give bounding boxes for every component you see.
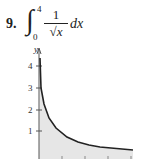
integral-problem: 9. ∫ 4 0 1 √x dx	[4, 4, 142, 44]
svg-text:1: 1	[28, 126, 33, 136]
integrand-fraction: 1 √x	[44, 8, 68, 39]
svg-text:2: 2	[28, 105, 33, 115]
problem-number: 9.	[6, 16, 17, 32]
function-graph: 4 3 2 1	[0, 44, 142, 159]
integral-sign: ∫	[26, 6, 34, 34]
lower-limit: 0	[33, 32, 38, 42]
upper-limit: 4	[37, 4, 42, 14]
differential: dx	[70, 16, 83, 32]
numerator: 1	[44, 8, 68, 22]
svg-text:4: 4	[28, 61, 33, 71]
y-tick-labels: 4 3 2 1	[28, 61, 33, 136]
denominator: √x	[44, 25, 68, 39]
svg-text:3: 3	[28, 83, 33, 93]
